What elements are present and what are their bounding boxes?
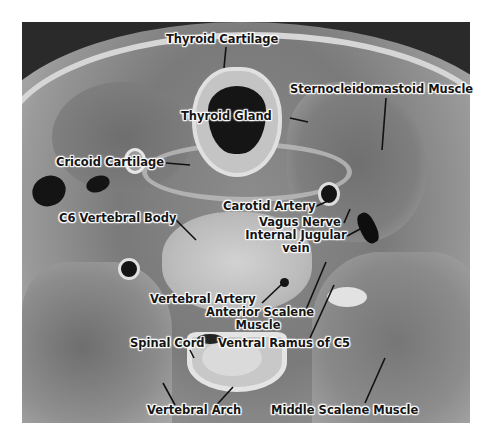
label-middle-scalene-muscle: Middle Scalene Muscle <box>271 404 418 417</box>
label-carotid-artery: Carotid Artery <box>223 200 315 213</box>
label-anterior-scalene-muscle: Anterior Scalene Muscle <box>206 306 310 332</box>
label-thyroid-gland: Thyroid Gland <box>181 110 272 123</box>
label-c6-vertebral-body: C6 Vertebral Body <box>59 212 177 225</box>
label-spinal-cord: Spinal Cord <box>130 337 205 350</box>
label-thyroid-cartilage: Thyroid Cartilage <box>166 33 278 46</box>
label-cricoid-cartilage: Cricoid Cartilage <box>56 156 164 169</box>
label-anterior-scalene-line2: Muscle <box>206 319 310 332</box>
left-vertebral-artery <box>118 258 140 280</box>
label-sternocleidomastoid: Sternocleidomastoid Muscle <box>290 83 473 96</box>
label-ventral-ramus-c5: Ventral Ramus of C5 <box>218 337 350 350</box>
carotid-artery <box>318 182 340 206</box>
right-vertebral-artery <box>280 278 289 287</box>
label-internal-jugular-vein: Internal Jugular vein <box>244 229 348 255</box>
scalene-fascia <box>327 287 367 307</box>
label-internal-jugular-line2: vein <box>244 242 348 255</box>
label-vertebral-arch: Vertebral Arch <box>147 404 241 417</box>
